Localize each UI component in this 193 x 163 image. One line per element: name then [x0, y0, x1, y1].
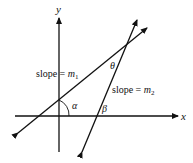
- alpha-arc: [59, 100, 69, 116]
- angle-between-lines-diagram: x y slope = m1 slope = m2 α θ β: [0, 0, 193, 163]
- slope-var: m: [144, 84, 151, 95]
- slope-sub: 1: [75, 73, 79, 81]
- line-1-slope-label: slope = m1: [36, 68, 79, 81]
- slope-sub: 2: [151, 89, 155, 97]
- theta-label: θ: [110, 60, 115, 71]
- beta-label: β: [101, 103, 107, 114]
- slope-text: slope =: [112, 84, 144, 95]
- slope-text: slope =: [36, 68, 68, 79]
- line-2-slope-label: slope = m2: [112, 84, 155, 97]
- slope-var: m: [68, 68, 75, 79]
- x-axis-label: x: [180, 110, 186, 122]
- alpha-label: α: [72, 100, 78, 111]
- y-axis-label: y: [55, 3, 61, 15]
